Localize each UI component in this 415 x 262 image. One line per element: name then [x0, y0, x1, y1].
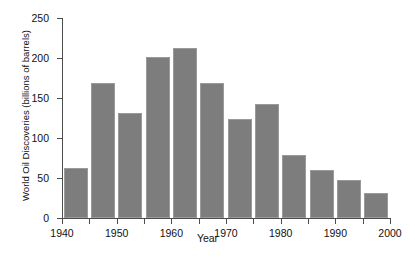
- y-tick: 150: [57, 98, 62, 99]
- bar: [364, 193, 388, 218]
- plot-area: 050100150200250 194019501960197019801990…: [62, 18, 390, 218]
- bar: [282, 155, 306, 218]
- x-tick: [89, 219, 90, 224]
- oil-discoveries-bar-chart: World Oil Discoveries (billions of barre…: [0, 0, 415, 262]
- x-tick: [363, 219, 364, 224]
- x-tick: [308, 219, 309, 224]
- x-tick: [62, 219, 63, 224]
- y-tick: 200: [57, 58, 62, 59]
- y-tick-label: 250: [31, 12, 49, 24]
- bar: [337, 180, 361, 218]
- y-tick-label: 0: [43, 212, 49, 224]
- x-tick: [253, 219, 254, 224]
- y-axis-title: World Oil Discoveries (billions of barre…: [20, 6, 31, 226]
- x-tick: [335, 219, 336, 224]
- y-tick-label: 100: [31, 132, 49, 144]
- bar: [255, 104, 279, 218]
- bar: [228, 119, 252, 218]
- x-tick: [226, 219, 227, 224]
- bar: [118, 113, 142, 218]
- x-axis-title: Year: [0, 232, 415, 244]
- bar: [200, 83, 224, 218]
- bar: [64, 168, 88, 218]
- x-tick: [117, 219, 118, 224]
- y-tick: 50: [57, 178, 62, 179]
- y-tick: 100: [57, 138, 62, 139]
- bar: [310, 170, 334, 218]
- x-tick: [281, 219, 282, 224]
- x-tick: [144, 219, 145, 224]
- y-tick-label: 200: [31, 52, 49, 64]
- bar: [91, 83, 115, 218]
- y-tick-label: 50: [37, 172, 49, 184]
- y-tick-label: 150: [31, 92, 49, 104]
- x-tick: [390, 219, 391, 224]
- bar: [146, 57, 170, 218]
- x-tick: [171, 219, 172, 224]
- bar: [173, 48, 197, 218]
- x-tick: [199, 219, 200, 224]
- y-tick: 250: [57, 18, 62, 19]
